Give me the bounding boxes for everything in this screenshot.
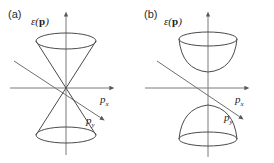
upper-band-left-wall-b	[179, 39, 208, 72]
dispersion-figure: (a) ε(p) px py	[0, 0, 274, 163]
energy-label-suffix-a: )	[45, 15, 49, 27]
panel-a-tag: (a)	[8, 9, 21, 20]
panel-b-py-axis-label: py	[224, 112, 233, 126]
energy-label-prefix-a: ε(	[31, 15, 39, 27]
panel-a-energy-axis-label: ε(p)	[31, 16, 49, 27]
panel-b-gapped-bands: (b) ε(p) px py	[137, 0, 274, 163]
axis-py-b	[157, 61, 240, 117]
axis-py-a	[14, 61, 101, 118]
panel-a-drawing	[0, 0, 137, 163]
upper-band-right-wall-b	[208, 39, 237, 72]
px-label-sub-a: x	[106, 100, 109, 108]
energy-label-suffix-b: )	[178, 15, 182, 27]
py-label-sub-b: y	[230, 118, 233, 126]
panel-b-energy-axis-label: ε(p)	[164, 16, 182, 27]
px-label-sub-b: x	[241, 100, 244, 108]
panel-b-tag: (b)	[144, 9, 157, 20]
panel-a-dirac-cone: (a) ε(p) px py	[0, 0, 137, 163]
panel-a-px-axis-label: px	[100, 94, 109, 108]
lower-band-left-wall-b	[179, 105, 208, 139]
py-label-sub-a: y	[92, 121, 95, 129]
panel-b-drawing	[137, 0, 274, 163]
panel-a-py-axis-label: py	[86, 115, 95, 129]
energy-label-prefix-b: ε(	[164, 15, 172, 27]
panel-b-px-axis-label: px	[235, 94, 244, 108]
